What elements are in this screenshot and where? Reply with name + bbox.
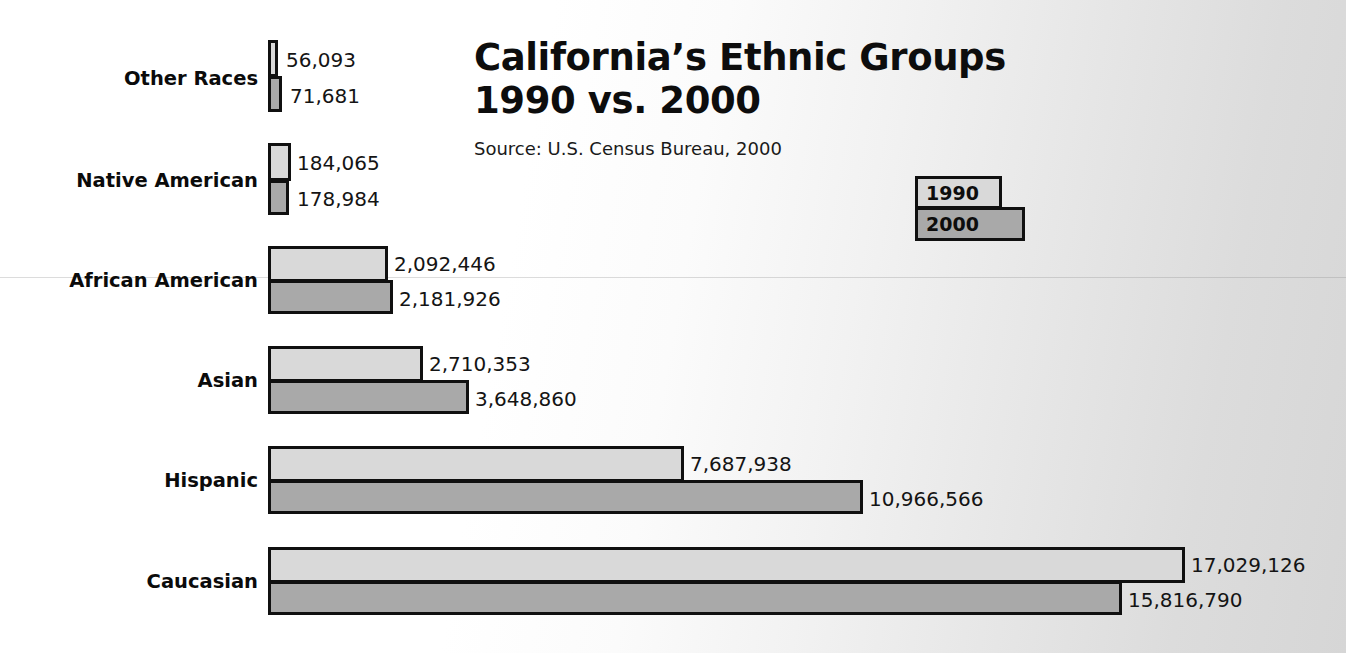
bar-value-asian-2000: 3,648,860 xyxy=(475,387,577,411)
bar-native-american-1990 xyxy=(268,143,291,181)
bar-asian-2000 xyxy=(268,380,469,414)
plot-area: Other Races 56,093 71,681 Native America… xyxy=(0,0,1346,653)
category-label-hispanic: Hispanic xyxy=(0,469,258,492)
bar-caucasian-1990 xyxy=(268,547,1185,583)
category-label-african-american: African American xyxy=(0,269,258,292)
bar-value-native-american-1990: 184,065 xyxy=(297,151,380,175)
category-label-native-american: Native American xyxy=(0,169,258,192)
category-label-other-races: Other Races xyxy=(0,67,258,90)
category-label-caucasian: Caucasian xyxy=(0,570,258,593)
bar-value-african-american-1990: 2,092,446 xyxy=(394,252,496,276)
bar-value-african-american-2000: 2,181,926 xyxy=(399,287,501,311)
bar-other-races-1990 xyxy=(268,40,278,77)
bar-group-caucasian: Caucasian 17,029,126 15,816,790 xyxy=(0,547,1346,615)
bar-group-hispanic: Hispanic 7,687,938 10,966,566 xyxy=(0,446,1346,514)
bar-value-other-races-1990: 56,093 xyxy=(286,48,356,72)
bar-value-caucasian-2000: 15,816,790 xyxy=(1128,588,1243,612)
legend-label-1990: 1990 xyxy=(926,182,979,204)
chart-canvas: California’s Ethnic Groups 1990 vs. 2000… xyxy=(0,0,1346,653)
bar-caucasian-2000 xyxy=(268,581,1122,615)
bar-group-other-races: Other Races 56,093 71,681 xyxy=(0,40,1346,112)
bar-hispanic-2000 xyxy=(268,480,863,514)
bar-native-american-2000 xyxy=(268,180,289,215)
bar-group-african-american: African American 2,092,446 2,181,926 xyxy=(0,246,1346,314)
legend-label-2000: 2000 xyxy=(926,213,979,235)
legend-swatch-2000: 2000 xyxy=(915,207,1025,241)
bar-asian-1990 xyxy=(268,346,423,382)
bar-hispanic-1990 xyxy=(268,446,684,482)
bar-african-american-2000 xyxy=(268,280,393,314)
bar-value-caucasian-1990: 17,029,126 xyxy=(1191,553,1306,577)
bar-value-native-american-2000: 178,984 xyxy=(297,187,380,211)
bar-group-asian: Asian 2,710,353 3,648,860 xyxy=(0,346,1346,414)
bar-value-hispanic-1990: 7,687,938 xyxy=(690,452,792,476)
bar-african-american-1990 xyxy=(268,246,388,282)
bar-value-hispanic-2000: 10,966,566 xyxy=(869,487,984,511)
bar-group-native-american: Native American 184,065 178,984 xyxy=(0,143,1346,215)
bar-value-other-races-2000: 71,681 xyxy=(290,84,360,108)
legend-swatch-1990: 1990 xyxy=(915,176,1002,209)
category-label-asian: Asian xyxy=(0,369,258,392)
bar-value-asian-1990: 2,710,353 xyxy=(429,352,531,376)
bar-other-races-2000 xyxy=(268,76,282,112)
